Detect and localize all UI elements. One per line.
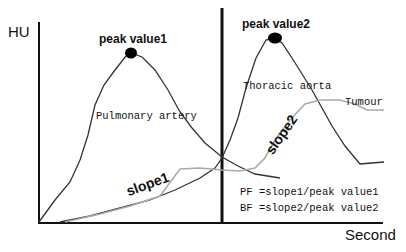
x-axis-label: Second — [345, 226, 396, 243]
pulmonary-artery-label: Pulmonary artery — [96, 110, 197, 122]
y-axis-label: HU — [8, 23, 30, 40]
thoracic-aorta-label: Thoracic aorta — [243, 80, 331, 92]
perfusion-diagram — [0, 0, 406, 252]
tumour-label: Tumour — [345, 96, 383, 108]
peak-value2-label: peak value2 — [242, 17, 310, 31]
peak-value1-label: peak value1 — [99, 32, 167, 46]
peak-value1-marker — [125, 48, 137, 59]
peak-value2-marker — [268, 33, 282, 44]
formula-pf: PF =slope1/peak value1 — [240, 186, 379, 198]
formula-bf: BF =slope2/peak value2 — [240, 202, 379, 214]
